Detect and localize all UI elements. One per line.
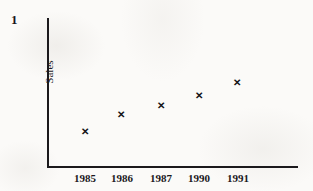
x-axis-line <box>47 166 298 168</box>
data-point-marker: ✕ <box>157 101 166 110</box>
data-point-marker: ✕ <box>117 110 126 119</box>
data-point-marker: ✕ <box>81 127 90 136</box>
figure-number-label: 1 <box>11 13 18 26</box>
data-point-marker: ✕ <box>195 91 204 100</box>
data-point-marker: ✕ <box>233 78 242 87</box>
figure-scatter-sales: 1 Sales ✕ ✕ ✕ ✕ ✕ 1985 1986 1987 1990 19… <box>0 0 313 191</box>
x-axis-tick-label: 1991 <box>215 171 261 185</box>
y-axis-title: Sales <box>41 42 57 102</box>
